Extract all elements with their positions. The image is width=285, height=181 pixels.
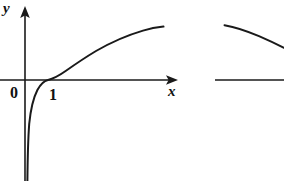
adjacent-figure-curve bbox=[225, 25, 285, 48]
x-intercept-tick-label: 1 bbox=[49, 87, 57, 103]
axes-group bbox=[0, 6, 178, 181]
y-axis-label: y bbox=[3, 1, 10, 16]
origin-label: 0 bbox=[10, 85, 18, 101]
math-figure-logarithm: y x 0 1 bbox=[0, 0, 284, 181]
logarithm-curve bbox=[27, 27, 163, 181]
figure-canvas bbox=[0, 0, 284, 181]
adjacent-figure-fragment bbox=[215, 25, 284, 80]
x-axis-label: x bbox=[168, 84, 176, 99]
